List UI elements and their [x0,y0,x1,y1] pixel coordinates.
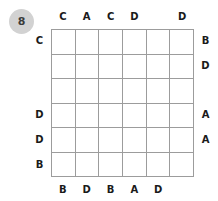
clue-bottom-3: B [99,181,123,198]
grid-cell[interactable] [76,153,100,178]
clue-right-1: B [197,29,214,54]
clues-bottom: B D B A D [51,181,194,198]
clue-bottom-2: D [75,181,99,198]
puzzle-grid[interactable] [51,29,194,177]
grid-cell[interactable] [147,128,171,153]
grid-cell[interactable] [147,104,171,129]
grid-cell[interactable] [99,128,123,153]
clues-left: C D D B [31,29,48,177]
clue-top-2: A [75,8,99,25]
grid-cell[interactable] [147,153,171,178]
clue-left-2 [31,54,48,79]
clue-bottom-4: A [123,181,147,198]
grid-cell[interactable] [99,79,123,104]
grid-cell[interactable] [123,55,147,80]
grid-cell[interactable] [52,104,76,129]
clue-right-4: A [197,103,214,128]
grid-cell[interactable] [147,55,171,80]
clue-left-4: D [31,103,48,128]
grid-cell[interactable] [76,128,100,153]
clue-top-3: C [99,8,123,25]
clue-left-6: B [31,152,48,177]
grid-cell[interactable] [52,55,76,80]
grid-cell[interactable] [99,153,123,178]
grid-cell[interactable] [76,104,100,129]
grid-cell[interactable] [147,79,171,104]
grid-cell[interactable] [170,128,194,153]
clue-left-3 [31,78,48,103]
clue-top-1: C [51,8,75,25]
grid-cell[interactable] [76,79,100,104]
clue-top-6: D [170,8,194,25]
clue-left-1: C [31,29,48,54]
clue-left-5: D [31,128,48,153]
grid-cell[interactable] [76,30,100,55]
grid-cell[interactable] [170,30,194,55]
puzzle-number-label: 8 [18,16,26,27]
clue-top-4: D [123,8,147,25]
clue-bottom-5: D [146,181,170,198]
grid-cell[interactable] [99,55,123,80]
grid-cell[interactable] [99,30,123,55]
grid-cell[interactable] [52,153,76,178]
grid-cell[interactable] [52,79,76,104]
grid-cell[interactable] [170,55,194,80]
puzzle-board: C A C D D C D D B [51,29,194,177]
grid-cell[interactable] [123,128,147,153]
grid-cell[interactable] [170,79,194,104]
clues-top: C A C D D [51,8,194,25]
grid-cell[interactable] [123,153,147,178]
grid-cell[interactable] [123,30,147,55]
grid-cell[interactable] [170,153,194,178]
grid-cell[interactable] [52,128,76,153]
grid-cell[interactable] [123,79,147,104]
grid-cell[interactable] [123,104,147,129]
clue-top-5 [146,8,170,25]
clues-right: B D A A [197,29,214,177]
clue-right-3 [197,78,214,103]
clue-right-6 [197,152,214,177]
grid-cell[interactable] [52,30,76,55]
grid-cell[interactable] [170,104,194,129]
grid-cell[interactable] [147,30,171,55]
clue-right-5: A [197,128,214,153]
clue-right-2: D [197,54,214,79]
grid-cell[interactable] [76,55,100,80]
clue-bottom-1: B [51,181,75,198]
grid-cell[interactable] [99,104,123,129]
clue-bottom-6 [170,181,194,198]
